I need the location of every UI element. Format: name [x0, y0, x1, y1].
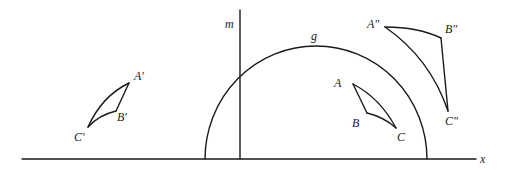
vertex-a-prime-label: A′ [133, 69, 144, 83]
triangle-double-prime-side-ca [385, 27, 448, 111]
vertex-c-double-prime-label: C″ [445, 114, 459, 128]
vertex-b-double-prime-label: B″ [445, 22, 458, 36]
semicircle-g [205, 46, 427, 159]
vertex-b-prime-label: B′ [117, 110, 127, 124]
x-axis-label: x [479, 152, 486, 166]
vertex-b-label: B [352, 116, 360, 130]
triangle-abc-side-ca [353, 84, 396, 128]
triangle-abc: A B C [333, 76, 406, 144]
triangle-a-double-prime-b-double-prime-c-double-prime: A″ B″ C″ [366, 17, 459, 128]
triangle-a-prime-b-prime-c-prime: A′ B′ C′ [74, 69, 144, 144]
vertex-a-label: A [333, 76, 342, 90]
line-m-label: m [225, 17, 234, 31]
vertex-c-prime-label: C′ [74, 130, 85, 144]
vertex-c-label: C [397, 130, 406, 144]
hyperbolic-reflection-diagram: x m g A B C A′ B′ C′ A″ B″ C″ [0, 0, 510, 171]
vertex-a-double-prime-label: A″ [366, 17, 380, 31]
semicircle-g-label: g [311, 29, 317, 43]
